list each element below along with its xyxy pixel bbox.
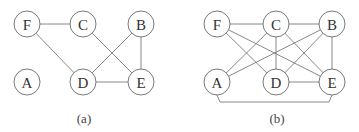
- node-label: B: [327, 17, 337, 33]
- node-label: B: [136, 17, 146, 33]
- graph-a-nodes: FCBADE: [14, 11, 154, 95]
- node-f: F: [14, 11, 40, 37]
- graph-a: FCBADE (a): [14, 11, 154, 126]
- node-f: F: [204, 11, 230, 37]
- node-c: C: [263, 11, 289, 37]
- node-c: C: [70, 11, 96, 37]
- graph-diagram: FCBADE (a) FCBADE (b): [0, 0, 359, 132]
- node-d: D: [70, 69, 96, 95]
- node-label: E: [136, 75, 145, 91]
- edge-a-e: [217, 95, 332, 102]
- node-label: E: [327, 75, 336, 91]
- node-b: B: [128, 11, 154, 37]
- node-b: B: [319, 11, 345, 37]
- node-label: C: [271, 17, 281, 33]
- node-label: F: [23, 17, 31, 33]
- node-e: E: [128, 69, 154, 95]
- node-label: D: [78, 75, 89, 91]
- node-a: A: [204, 69, 230, 95]
- node-a: A: [14, 69, 40, 95]
- node-label: D: [271, 75, 282, 91]
- graph-b-caption: (b): [269, 111, 284, 126]
- node-d: D: [263, 69, 289, 95]
- node-label: F: [213, 17, 221, 33]
- node-label: C: [78, 17, 88, 33]
- node-e: E: [319, 69, 345, 95]
- graph-a-caption: (a): [77, 111, 91, 126]
- node-label: A: [212, 75, 223, 91]
- graph-b: FCBADE (b): [204, 11, 345, 126]
- node-label: A: [22, 75, 33, 91]
